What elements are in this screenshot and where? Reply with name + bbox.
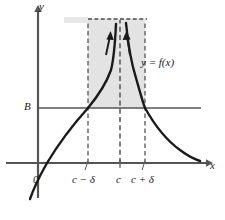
c-plus-delta-label: c + δ — [131, 174, 154, 185]
x-axis-label: x — [210, 160, 215, 171]
shaded-region-upper-fade — [64, 17, 88, 23]
c-minus-delta-label: c − δ — [72, 174, 95, 185]
limit-diagram-figure: y x B 0 c − δ c c + δ y = f(x) — [0, 0, 225, 220]
y-axis-label: y — [39, 1, 44, 12]
origin-label: 0 — [33, 174, 39, 185]
function-curve-label: y = f(x) — [141, 57, 174, 68]
b-threshold-label: B — [24, 101, 31, 112]
c-label: c — [116, 174, 121, 185]
diagram-canvas — [0, 0, 225, 220]
